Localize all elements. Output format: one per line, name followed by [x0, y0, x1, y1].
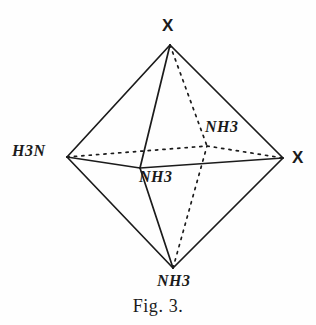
figure-caption: Fig. 3. — [0, 296, 316, 317]
solid-edges — [67, 45, 283, 268]
vertex-label-back-nh3: NH3 — [205, 119, 239, 135]
edge-bottom-right — [173, 158, 283, 268]
vertex-label-left-h3n: H3N — [12, 143, 46, 159]
figure-container: X X H3N NH3 NH3 NH3 Fig. 3. — [0, 0, 316, 325]
vertex-label-front-nh3: NH3 — [139, 169, 173, 185]
edge-top-right — [170, 45, 283, 158]
hidden-edges — [67, 45, 283, 268]
edge-top-back — [170, 45, 207, 146]
vertex-label-bottom-nh3: NH3 — [157, 273, 191, 289]
edge-left-front — [67, 157, 140, 168]
vertex-label-right-x: X — [292, 149, 303, 166]
edge-left-back — [67, 146, 207, 157]
edge-front-right — [140, 158, 283, 168]
edge-top-left — [67, 45, 170, 157]
vertex-label-top-x: X — [162, 17, 173, 34]
